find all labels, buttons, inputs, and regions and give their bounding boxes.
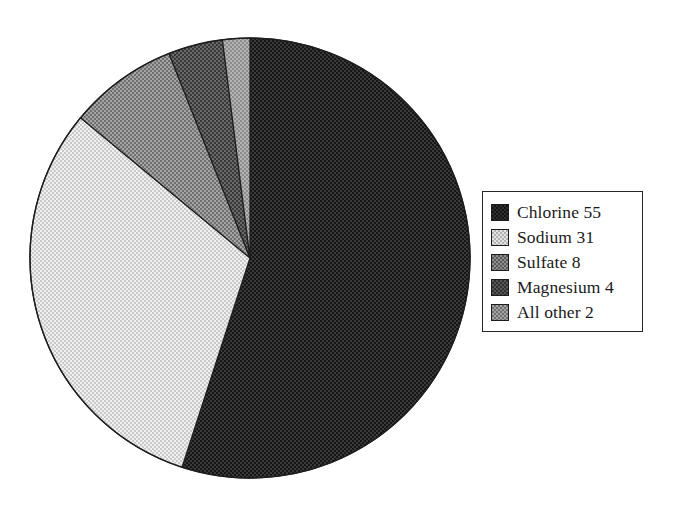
legend-label-sulfate: Sulfate 8 xyxy=(517,253,581,272)
legend-item-allother[interactable]: All other 2 xyxy=(491,300,642,325)
legend-item-chlorine[interactable]: Chlorine 55 xyxy=(491,200,642,225)
sodium-swatch-icon xyxy=(491,229,509,246)
legend-label-sodium: Sodium 31 xyxy=(517,228,594,247)
sulfate-swatch-icon xyxy=(491,254,509,271)
legend-item-magnesium[interactable]: Magnesium 4 xyxy=(491,275,642,300)
legend-label-chlorine: Chlorine 55 xyxy=(517,203,601,222)
chlorine-swatch-icon xyxy=(491,204,509,221)
pie-slice-group xyxy=(30,38,470,478)
legend-item-sodium[interactable]: Sodium 31 xyxy=(491,225,642,250)
legend-label-magnesium: Magnesium 4 xyxy=(517,278,614,297)
chart-legend: Chlorine 55 Sodium 31 Sulfate 8 Magnesiu… xyxy=(482,191,643,332)
legend-item-sulfate[interactable]: Sulfate 8 xyxy=(491,250,642,275)
pie-chart-figure: Chlorine 55 Sodium 31 Sulfate 8 Magnesiu… xyxy=(0,0,680,508)
allother-swatch-icon xyxy=(491,304,509,321)
magnesium-swatch-icon xyxy=(491,279,509,296)
legend-label-allother: All other 2 xyxy=(517,303,594,322)
